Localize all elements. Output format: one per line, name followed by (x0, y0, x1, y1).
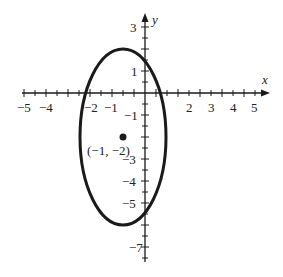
y-axis-arrow-icon (142, 13, 149, 22)
x-tick-label: 4 (230, 100, 237, 115)
x-axis-arrow-icon (261, 90, 270, 97)
x-tick-label: 3 (208, 100, 215, 115)
ellipse-graph: x y −5 −4 −2 −1 2 3 4 5 3 1 −1 −3 −4 −5 … (0, 0, 283, 277)
x-tick-label: 5 (251, 100, 258, 115)
y-tick-label: −5 (122, 196, 136, 211)
x-tick-label: −2 (84, 100, 98, 115)
y-tick-label: 1 (131, 64, 138, 79)
y-tick-label: 3 (130, 20, 137, 35)
y-tick-label: −7 (129, 240, 143, 255)
center-point (120, 134, 127, 141)
x-tick-label: 2 (186, 100, 193, 115)
x-tick-label: −4 (39, 100, 53, 115)
y-tick-label: −4 (122, 174, 136, 189)
x-tick-label: −5 (17, 100, 31, 115)
y-tick-label: −1 (124, 108, 138, 123)
x-tick-label: −1 (104, 100, 118, 115)
x-axis-label: x (261, 72, 268, 87)
y-axis-label: y (150, 12, 158, 27)
center-point-label: (−1, −2) (87, 143, 130, 158)
